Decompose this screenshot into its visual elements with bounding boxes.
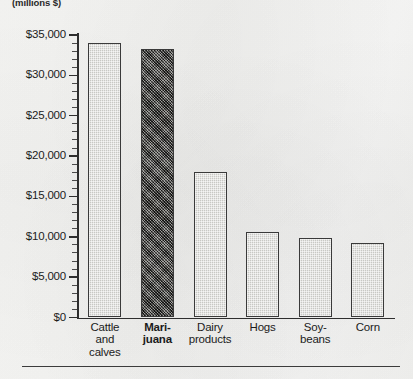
y-axis-tick-major — [69, 155, 77, 157]
y-axis-tick-minor — [72, 139, 77, 140]
y-axis-tick-minor — [72, 148, 77, 149]
y-axis-tick-minor — [72, 204, 77, 205]
category-label-soybeans: Soy-beans — [289, 321, 342, 346]
y-axis-tick-minor — [72, 59, 77, 60]
y-axis-tick-minor — [72, 83, 77, 84]
bar-hogs[interactable] — [246, 232, 279, 318]
y-axis-tick-minor — [72, 51, 77, 52]
bar-dairy-products[interactable] — [194, 172, 227, 317]
category-label-dairy-products: Dairyproducts — [184, 321, 237, 346]
y-axis-tick-major — [69, 196, 77, 198]
bar-chart-plot: $0$5,000$10,000$15,000$20,000$25,000$30,… — [0, 0, 413, 379]
y-axis-tick-label: $25,000 — [4, 109, 66, 121]
y-axis-line — [77, 33, 79, 319]
y-axis-tick-minor — [72, 43, 77, 44]
category-label-line: Mari- — [131, 321, 184, 333]
category-label-line: beans — [289, 333, 342, 345]
y-axis-tick-minor — [72, 67, 77, 68]
y-axis-tick-major — [69, 115, 77, 117]
y-axis-tick-minor — [72, 107, 77, 108]
y-axis-tick-minor — [72, 164, 77, 165]
y-axis-tick-minor — [72, 309, 77, 310]
y-axis-tick-minor — [72, 244, 77, 245]
y-axis-tick-minor — [72, 293, 77, 294]
y-axis-tick-major — [69, 317, 77, 319]
y-axis-tick-major — [69, 236, 77, 238]
y-axis-tick-major — [69, 34, 77, 36]
category-label-corn: Corn — [342, 321, 395, 333]
y-axis-tick-minor — [72, 91, 77, 92]
category-label-cattle-and-calves: Cattleandcalves — [79, 321, 132, 358]
y-axis-tick-minor — [72, 261, 77, 262]
y-axis-tick-major — [69, 276, 77, 278]
y-axis-tick-minor — [72, 99, 77, 100]
y-axis-tick-minor — [72, 131, 77, 132]
category-label-line: Soy- — [289, 321, 342, 333]
category-label-line: juana — [131, 333, 184, 345]
y-axis-tick-minor — [72, 172, 77, 173]
y-axis-tick-major — [69, 75, 77, 77]
bar-cattle-and-calves[interactable] — [88, 43, 121, 317]
category-label-line: calves — [79, 346, 132, 358]
y-axis-tick-minor — [72, 269, 77, 270]
y-axis-tick-minor — [72, 285, 77, 286]
y-axis-tick-minor — [72, 188, 77, 189]
category-label-line: Cattle — [79, 321, 132, 333]
y-axis-tick-minor — [72, 228, 77, 229]
bar-corn[interactable] — [351, 243, 384, 317]
bottom-divider-rule — [22, 366, 400, 367]
chart-page: (millions $) $0$5,000$10,000$15,000$20,0… — [0, 0, 413, 379]
category-label-line: Hogs — [236, 321, 289, 333]
bar-soybeans[interactable] — [299, 238, 332, 318]
y-axis-tick-minor — [72, 220, 77, 221]
bar-marijuana[interactable] — [141, 49, 174, 318]
axis-unit-label: (millions $) — [12, 0, 61, 8]
category-label-line: and — [79, 333, 132, 345]
y-axis-tick-label: $0 — [4, 311, 66, 323]
y-axis-tick-label: $20,000 — [4, 149, 66, 161]
category-label-line: Corn — [342, 321, 395, 333]
y-axis-tick-minor — [72, 301, 77, 302]
y-axis-tick-label: $15,000 — [4, 189, 66, 201]
category-label-line: Dairy — [184, 321, 237, 333]
x-axis-line — [77, 318, 395, 320]
y-axis-tick-minor — [72, 180, 77, 181]
y-axis-tick-label: $10,000 — [4, 230, 66, 242]
y-axis-tick-label: $35,000 — [4, 28, 66, 40]
category-label-line: products — [184, 333, 237, 345]
y-axis-tick-label: $30,000 — [4, 68, 66, 80]
y-axis-tick-minor — [72, 123, 77, 124]
category-label-marijuana: Mari-juana — [131, 321, 184, 346]
y-axis-tick-minor — [72, 252, 77, 253]
y-axis-tick-minor — [72, 212, 77, 213]
y-axis-tick-label: $5,000 — [4, 270, 66, 282]
category-label-hogs: Hogs — [236, 321, 289, 333]
